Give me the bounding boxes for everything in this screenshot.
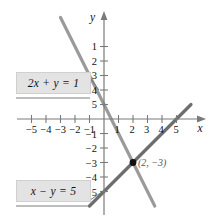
y-tick-label: −1 xyxy=(86,129,97,140)
x-tick-label: 5 xyxy=(173,124,178,135)
x-tick-label: 3 xyxy=(144,124,149,135)
line-x-minus-y-equals-5 xyxy=(90,105,192,207)
x-tick-label: 2 xyxy=(129,124,134,135)
line-2x-plus-y-equals-1 xyxy=(61,18,155,207)
x-tick-label: −4 xyxy=(40,124,52,135)
x-tick-label: 1 xyxy=(114,124,119,135)
y-tick-label: 5 xyxy=(92,99,97,110)
y-tick-label: −3 xyxy=(86,158,97,169)
y-tick-label: −2 xyxy=(86,143,97,154)
equation-label-2x-plus-y-equals-1: 2x + y = 1 xyxy=(16,72,91,94)
intersection-point xyxy=(130,159,137,166)
y-tick-label: 4 xyxy=(92,85,98,96)
y-axis-label: y xyxy=(89,11,96,24)
y-tick-label: 3 xyxy=(92,70,97,81)
y-tick-label: 1 xyxy=(92,41,97,52)
y-tick-label: 2 xyxy=(92,56,97,67)
equation-label-x-minus-y-equals-5: x − y = 5 xyxy=(16,180,91,202)
x-axis-label: x xyxy=(196,122,203,134)
x-tick-label: 4 xyxy=(158,124,164,135)
x-tick-label: −3 xyxy=(55,124,66,135)
x-tick-label: −2 xyxy=(69,124,80,135)
y-axis-arrowhead xyxy=(101,11,108,20)
intersection-point-label: (2, −3) xyxy=(138,157,166,168)
graph-figure: −5 −4 −3 −2 −1 1 2 3 4 5 5 4 3 2 1 −1 −2… xyxy=(0,0,216,223)
x-tick-label: −5 xyxy=(26,124,37,135)
